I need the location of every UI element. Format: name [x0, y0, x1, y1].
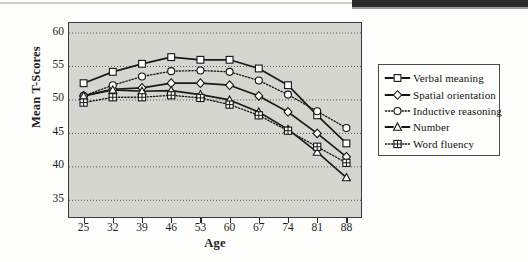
- legend-marker-open-diamond-icon: [384, 88, 411, 102]
- y-axis-title: Mean T-Scores: [29, 27, 47, 147]
- x-tick-mark: [288, 218, 289, 223]
- x-tick-mark: [113, 218, 114, 223]
- x-axis-title: Age: [145, 236, 285, 251]
- series-point-group: [80, 79, 351, 161]
- series-markers: [80, 54, 351, 181]
- series-line: [84, 70, 347, 128]
- x-tick-mark: [346, 218, 347, 223]
- x-tick-mark: [200, 218, 201, 223]
- series-line: [84, 83, 347, 157]
- x-tick-mark: [142, 218, 143, 223]
- legend-marker-open-square-icon: [384, 71, 411, 85]
- legend-label: Verbal meaning: [411, 72, 484, 84]
- series-lines: [84, 57, 347, 177]
- legend-item: Inductive reasoning: [384, 103, 495, 119]
- chart-legend: Verbal meaningSpatial orientationInducti…: [378, 64, 500, 156]
- legend-marker-open-triangle-icon: [384, 120, 411, 134]
- legend-item: Number: [384, 119, 495, 135]
- line-chart-figure: 354045505560 25323946536067748188 Mean T…: [0, 0, 528, 262]
- legend-item: Verbal meaning: [384, 70, 495, 86]
- legend-label: Inductive reasoning: [411, 105, 502, 117]
- chart-canvas: [69, 23, 361, 217]
- x-tick-mark: [259, 218, 260, 223]
- legend-label: Word fluency: [411, 138, 474, 150]
- x-tick-mark: [171, 218, 172, 223]
- legend-marker-crossed-square-icon: [384, 137, 411, 151]
- legend-item: Word fluency: [384, 136, 495, 152]
- plot-area: [68, 22, 362, 218]
- series-point-group: [80, 92, 350, 167]
- series-point-group: [80, 67, 350, 132]
- legend-label: Spatial orientation: [411, 89, 496, 101]
- legend-item: Spatial orientation: [384, 86, 495, 102]
- legend-marker-open-circle-icon: [384, 104, 411, 118]
- x-tick-mark: [230, 218, 231, 223]
- x-tick-mark: [317, 218, 318, 223]
- x-tick-mark: [84, 218, 85, 223]
- legend-label: Number: [411, 121, 450, 133]
